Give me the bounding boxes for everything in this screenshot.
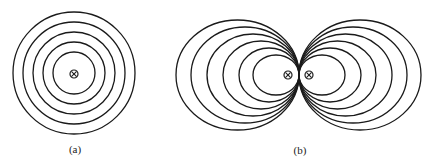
magnetic-field-figure: (a) (b) [0,0,436,164]
panel-b-caption: (b) [294,144,307,156]
current-into-page-icon [70,70,78,78]
field-line-circle [53,52,95,94]
field-line-loop-right [299,41,376,109]
field-line-circle [23,22,125,124]
field-line-loop-right [299,55,345,95]
current-into-page-icon [305,71,313,79]
field-lines-drawing [0,0,436,164]
panel-a-single-wire [13,12,135,134]
panel-b-two-wires [176,20,421,130]
field-line-circle [13,12,135,134]
field-line-loop-right [299,27,407,123]
field-line-circle [43,42,105,104]
panel-a-caption: (a) [69,143,81,155]
current-into-page-icon [284,71,292,79]
field-line-circle [33,32,115,114]
